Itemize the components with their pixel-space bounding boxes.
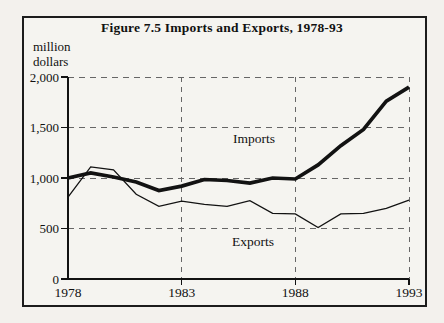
x-tick-label-1993: 1993 — [396, 285, 423, 300]
exports-series-label: Exports — [232, 234, 274, 250]
x-tick-label-1983: 1983 — [168, 285, 195, 300]
y-tick-label-500: 500 — [40, 221, 60, 236]
y-tick-label-1500: 1,500 — [30, 120, 59, 135]
figure-title: Figure 7.5 Imports and Exports, 1978-93 — [0, 20, 444, 36]
x-tick-label-1978: 1978 — [55, 285, 82, 300]
y-axis-unit-label: million dollars — [33, 39, 71, 69]
exports-line — [68, 167, 409, 228]
y-tick-label-2000: 2,000 — [30, 70, 59, 85]
x-tick-label-1988: 1988 — [282, 285, 309, 300]
imports-series-label: Imports — [233, 131, 275, 147]
unit-label-line-2: dollars — [33, 54, 71, 69]
y-tick-label-1000: 1,000 — [30, 171, 59, 186]
scanned-figure-page: 05001,0001,5002,0001978198319881993 Figu… — [0, 0, 444, 323]
unit-label-line-1: million — [33, 39, 71, 54]
